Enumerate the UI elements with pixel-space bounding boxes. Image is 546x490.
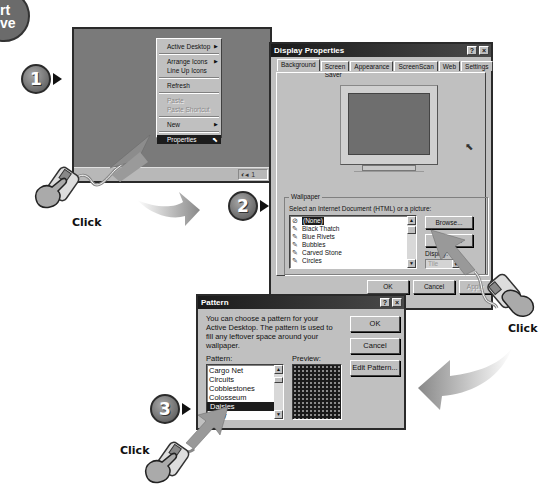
wallpaper-icon: ✎: [292, 225, 300, 233]
menu-separator: [159, 51, 219, 55]
step-number: 2: [237, 196, 249, 216]
dialog-title: Display Properties: [274, 46, 344, 55]
pattern-item[interactable]: Circuits: [207, 375, 283, 384]
step-3-badge: 3: [150, 394, 180, 424]
scroll-thumb[interactable]: [407, 226, 416, 234]
menu-item-label: Properties: [167, 136, 197, 143]
menu-item-line-up-icons[interactable]: Line Up Icons: [157, 66, 221, 75]
button-label: OK: [370, 319, 381, 328]
close-button[interactable]: ×: [392, 298, 402, 307]
monitor-screen: [348, 93, 430, 155]
pattern-cancel-button[interactable]: Cancel: [350, 338, 400, 354]
button-label: Cancel: [363, 341, 386, 350]
list-item-label: Circuits: [209, 375, 234, 384]
step-number: 3: [159, 399, 171, 419]
list-item-label: Black Thatch: [302, 225, 339, 233]
mouse-hand-icon: [485, 272, 545, 322]
step-number: 1: [30, 69, 42, 89]
wallpaper-group-label: Wallpaper: [289, 193, 322, 200]
pattern-item[interactable]: Colosseum: [207, 393, 283, 402]
dialog-title: Pattern: [201, 298, 229, 307]
monitor-preview: [340, 85, 438, 165]
wallpaper-list[interactable]: ⊘(None) ✎Black Thatch ✎Blue Rivets ✎Bubb…: [289, 215, 417, 269]
tab-strip: Background Screen Saver Appearance Scree…: [277, 61, 494, 71]
list-item-label: Cobblestones: [209, 384, 255, 393]
wallpaper-item[interactable]: ✎Bubbles: [290, 241, 416, 249]
click-label: Click: [120, 444, 149, 457]
edit-pattern-button[interactable]: Edit Pattern...: [350, 360, 400, 376]
curved-arrow-left-icon: [410, 340, 520, 410]
menu-item-label: Arrange Icons: [167, 58, 207, 65]
tab-label: Web: [443, 63, 456, 70]
wallpaper-item[interactable]: ✎Blue Rivets: [290, 233, 416, 241]
wallpaper-icon: ✎: [292, 257, 300, 265]
corner-badge: rt ve: [0, 0, 30, 42]
list-item-label: (None): [302, 217, 324, 225]
pattern-ok-button[interactable]: OK: [350, 316, 400, 332]
menu-item-arrange-icons[interactable]: Arrange Icons▶: [157, 57, 221, 66]
tab-screenscan[interactable]: ScreenScan: [394, 61, 437, 71]
mouse-hand-icon: [30, 165, 90, 215]
menu-item-label: Refresh: [167, 82, 190, 89]
pattern-preview: [292, 364, 342, 420]
button-label: Edit Pattern...: [352, 363, 397, 372]
preview-label: Preview:: [292, 354, 321, 363]
wallpaper-icon: ✎: [292, 241, 300, 249]
tab-screen-saver[interactable]: Screen Saver: [321, 61, 350, 71]
system-tray[interactable]: ◐◂ 1: [238, 169, 268, 180]
wallpaper-list-scrollbar[interactable]: ▲ ▼: [407, 216, 416, 268]
list-item-label: Circles: [302, 257, 322, 265]
close-icon: ×: [395, 299, 399, 306]
scroll-down-button[interactable]: ▼: [274, 410, 283, 419]
help-button[interactable]: ?: [467, 46, 477, 55]
scroll-up-button[interactable]: ▲: [274, 365, 283, 374]
tab-background[interactable]: Background: [277, 59, 320, 71]
close-icon: ×: [482, 47, 486, 54]
scroll-down-button[interactable]: ▼: [407, 259, 416, 268]
menu-item-refresh[interactable]: Refresh: [157, 81, 221, 90]
list-item-label: Bubbles: [302, 241, 326, 249]
menu-item-active-desktop[interactable]: Active Desktop▶: [157, 42, 221, 51]
mouse-cursor-icon: ⬉: [212, 135, 218, 144]
dialog-titlebar[interactable]: Pattern ? ×: [198, 296, 404, 309]
click-label: Click: [72, 216, 101, 229]
pattern-item[interactable]: Cobblestones: [207, 384, 283, 393]
click-label: Click: [508, 322, 537, 335]
step-2-badge: 2: [228, 191, 258, 221]
menu-item-label: Active Desktop: [167, 43, 210, 50]
button-label: OK: [383, 283, 392, 290]
scroll-thumb[interactable]: [274, 377, 283, 383]
wallpaper-item-none[interactable]: ⊘(None): [290, 217, 416, 225]
submenu-arrow-icon: ▶: [214, 57, 218, 66]
help-icon: ?: [383, 299, 387, 306]
step-1-pointer-icon: [53, 73, 62, 85]
step-2-pointer-icon: [260, 200, 269, 212]
monitor-foot: [354, 171, 424, 174]
none-icon: ⊘: [292, 217, 300, 225]
tab-label: Settings: [465, 63, 489, 70]
tab-appearance[interactable]: Appearance: [350, 61, 393, 71]
wallpaper-item[interactable]: ✎Carved Stone: [290, 249, 416, 257]
tab-web[interactable]: Web: [439, 61, 460, 71]
tab-label: Background: [281, 61, 316, 68]
ok-button[interactable]: OK: [367, 280, 409, 294]
menu-separator: [159, 75, 219, 79]
list-item-label: Colosseum: [209, 393, 247, 402]
pattern-list-scrollbar[interactable]: ▲ ▼: [274, 365, 283, 419]
wallpaper-icon: ✎: [292, 233, 300, 241]
wallpaper-item[interactable]: ✎Circles: [290, 257, 416, 265]
pattern-label: Pattern:: [206, 354, 232, 363]
submenu-arrow-icon: ▶: [214, 120, 218, 129]
scroll-up-button[interactable]: ▲: [407, 216, 416, 225]
tray-icons: ◐◂ 1: [241, 171, 255, 178]
dialog-titlebar[interactable]: Display Properties ? ×: [271, 44, 491, 57]
menu-separator: [159, 90, 219, 94]
close-button[interactable]: ×: [479, 46, 489, 55]
menu-item-label: Line Up Icons: [167, 67, 207, 74]
help-button[interactable]: ?: [380, 298, 390, 307]
tab-label: ScreenScan: [398, 63, 433, 70]
pattern-item[interactable]: Cargo Net: [207, 366, 283, 375]
wallpaper-item[interactable]: ✎Black Thatch: [290, 225, 416, 233]
tab-settings[interactable]: Settings: [461, 61, 493, 71]
select-picture-label: Select an Internet Document (HTML) or a …: [289, 205, 431, 212]
